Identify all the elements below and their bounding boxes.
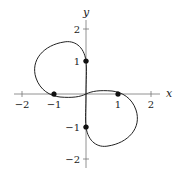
y-tick-label: −1: [65, 122, 80, 133]
point-neg1-0: [51, 91, 56, 96]
x-tick-label: −1: [47, 99, 62, 110]
x-tick-label: 1: [115, 99, 121, 110]
point-0-1: [83, 58, 88, 63]
x-tick-label: −2: [15, 99, 30, 110]
y-tick-label: 1: [74, 56, 80, 67]
curve-lobe-lower-right: [86, 91, 138, 147]
point-0-neg1: [83, 124, 88, 129]
x-axis-label: x: [166, 87, 173, 100]
point-1-0: [115, 91, 120, 96]
y-tick-label: 2: [74, 24, 80, 35]
curve-lobe-upper-left: [35, 42, 87, 98]
y-axis-label: y: [82, 6, 90, 19]
plot: −2 −1 1 2 2 1 −1 −2 x y: [0, 0, 181, 177]
x-tick-label: 2: [148, 99, 154, 110]
y-tick-label: −2: [65, 154, 80, 165]
